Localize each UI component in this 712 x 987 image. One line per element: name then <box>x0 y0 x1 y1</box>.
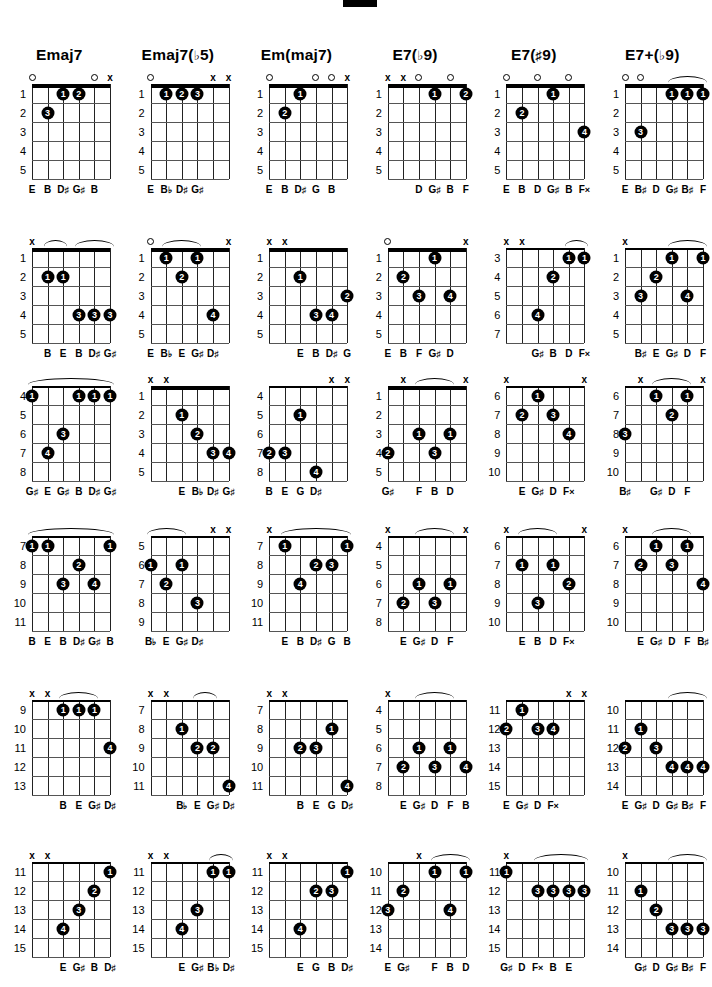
finger-dot[interactable]: 1 <box>444 741 457 754</box>
finger-dot[interactable]: 4 <box>665 760 678 773</box>
finger-dot[interactable]: 4 <box>459 760 472 773</box>
finger-dot[interactable]: 2 <box>397 596 410 609</box>
finger-dot[interactable]: 4 <box>222 779 235 792</box>
finger-dot[interactable]: 3 <box>665 558 678 571</box>
finger-dot[interactable]: 1 <box>650 539 663 552</box>
finger-dot[interactable]: 3 <box>665 922 678 935</box>
finger-dot[interactable]: 2 <box>562 577 575 590</box>
finger-dot[interactable]: 3 <box>278 446 291 459</box>
finger-dot[interactable]: 3 <box>72 308 85 321</box>
finger-dot[interactable]: 4 <box>309 465 322 478</box>
finger-dot[interactable]: 3 <box>57 577 70 590</box>
finger-dot[interactable]: 2 <box>397 270 410 283</box>
finger-dot[interactable]: 2 <box>88 884 101 897</box>
finger-dot[interactable]: 1 <box>26 539 39 552</box>
finger-dot[interactable]: 1 <box>547 558 560 571</box>
finger-dot[interactable]: 4 <box>444 289 457 302</box>
finger-dot[interactable]: 1 <box>206 865 219 878</box>
finger-dot[interactable]: 3 <box>104 308 117 321</box>
finger-dot[interactable]: 1 <box>41 270 54 283</box>
finger-dot[interactable]: 1 <box>222 865 235 878</box>
finger-dot[interactable]: 2 <box>160 577 173 590</box>
finger-dot[interactable]: 1 <box>294 270 307 283</box>
finger-dot[interactable]: 2 <box>263 446 276 459</box>
finger-dot[interactable]: 3 <box>57 427 70 440</box>
finger-dot[interactable]: 4 <box>88 577 101 590</box>
finger-dot[interactable]: 3 <box>72 903 85 916</box>
finger-dot[interactable]: 2 <box>665 408 678 421</box>
finger-dot[interactable]: 1 <box>444 577 457 590</box>
finger-dot[interactable]: 2 <box>634 558 647 571</box>
finger-dot[interactable]: 1 <box>412 577 425 590</box>
finger-dot[interactable]: 4 <box>325 308 338 321</box>
finger-dot[interactable]: 1 <box>578 251 591 264</box>
finger-dot[interactable]: 4 <box>578 125 591 138</box>
finger-dot[interactable]: 3 <box>531 884 544 897</box>
finger-dot[interactable]: 4 <box>206 308 219 321</box>
finger-dot[interactable]: 1 <box>681 389 694 402</box>
finger-dot[interactable]: 4 <box>681 289 694 302</box>
finger-dot[interactable]: 1 <box>515 558 528 571</box>
finger-dot[interactable]: 3 <box>325 884 338 897</box>
finger-dot[interactable]: 1 <box>500 865 513 878</box>
finger-dot[interactable]: 1 <box>665 87 678 100</box>
finger-dot[interactable]: 3 <box>619 427 632 440</box>
finger-dot[interactable]: 3 <box>428 760 441 773</box>
finger-dot[interactable]: 1 <box>341 539 354 552</box>
finger-dot[interactable]: 3 <box>191 903 204 916</box>
finger-dot[interactable]: 1 <box>191 251 204 264</box>
finger-dot[interactable]: 2 <box>341 289 354 302</box>
finger-dot[interactable]: 1 <box>650 389 663 402</box>
finger-dot[interactable]: 1 <box>562 251 575 264</box>
finger-dot[interactable]: 1 <box>531 389 544 402</box>
finger-dot[interactable]: 1 <box>341 865 354 878</box>
finger-dot[interactable]: 1 <box>175 722 188 735</box>
finger-dot[interactable]: 1 <box>428 865 441 878</box>
finger-dot[interactable]: 2 <box>191 427 204 440</box>
finger-dot[interactable]: 1 <box>104 539 117 552</box>
finger-dot[interactable]: 1 <box>26 389 39 402</box>
finger-dot[interactable]: 2 <box>500 722 513 735</box>
finger-dot[interactable]: 3 <box>191 596 204 609</box>
finger-dot[interactable]: 1 <box>175 408 188 421</box>
finger-dot[interactable]: 4 <box>562 427 575 440</box>
finger-dot[interactable]: 4 <box>294 577 307 590</box>
finger-dot[interactable]: 2 <box>175 270 188 283</box>
finger-dot[interactable]: 1 <box>57 87 70 100</box>
finger-dot[interactable]: 1 <box>547 87 560 100</box>
finger-dot[interactable]: 3 <box>412 289 425 302</box>
finger-dot[interactable]: 1 <box>175 558 188 571</box>
finger-dot[interactable]: 1 <box>88 703 101 716</box>
finger-dot[interactable]: 4 <box>222 446 235 459</box>
finger-dot[interactable]: 1 <box>57 703 70 716</box>
finger-dot[interactable]: 1 <box>412 427 425 440</box>
finger-dot[interactable]: 1 <box>681 539 694 552</box>
finger-dot[interactable]: 1 <box>681 87 694 100</box>
finger-dot[interactable]: 1 <box>294 408 307 421</box>
finger-dot[interactable]: 1 <box>428 251 441 264</box>
finger-dot[interactable]: 3 <box>428 446 441 459</box>
finger-dot[interactable]: 1 <box>697 87 710 100</box>
finger-dot[interactable]: 3 <box>697 922 710 935</box>
finger-dot[interactable]: 4 <box>681 760 694 773</box>
finger-dot[interactable]: 2 <box>294 741 307 754</box>
finger-dot[interactable]: 1 <box>72 389 85 402</box>
finger-dot[interactable]: 1 <box>160 251 173 264</box>
finger-dot[interactable]: 3 <box>681 922 694 935</box>
finger-dot[interactable]: 3 <box>191 87 204 100</box>
finger-dot[interactable]: 3 <box>634 289 647 302</box>
finger-dot[interactable]: 4 <box>531 308 544 321</box>
finger-dot[interactable]: 3 <box>309 308 322 321</box>
finger-dot[interactable]: 1 <box>144 558 157 571</box>
finger-dot[interactable]: 2 <box>206 741 219 754</box>
finger-dot[interactable]: 3 <box>325 558 338 571</box>
finger-dot[interactable]: 1 <box>57 270 70 283</box>
finger-dot[interactable]: 2 <box>72 558 85 571</box>
finger-dot[interactable]: 2 <box>278 106 291 119</box>
finger-dot[interactable]: 1 <box>444 427 457 440</box>
finger-dot[interactable]: 2 <box>397 884 410 897</box>
finger-dot[interactable]: 4 <box>294 922 307 935</box>
finger-dot[interactable]: 3 <box>562 884 575 897</box>
finger-dot[interactable]: 3 <box>578 884 591 897</box>
finger-dot[interactable]: 2 <box>547 270 560 283</box>
